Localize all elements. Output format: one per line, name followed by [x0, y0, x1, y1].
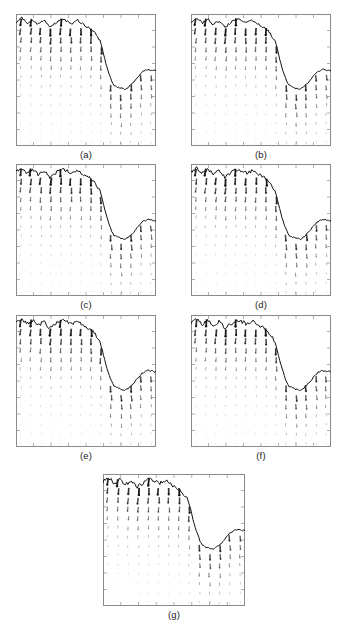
- figure-vector-field-array: (a)(b)(c)(d)(e)(f)(g): [0, 0, 348, 634]
- panel-d: (d): [191, 164, 331, 312]
- panel-plot-g: [103, 474, 245, 606]
- panel-frame: [17, 165, 156, 296]
- panel-b: (b): [191, 14, 331, 162]
- panel-g: (g): [103, 474, 245, 622]
- panel-plot-c: [16, 164, 156, 296]
- panel-frame: [192, 316, 331, 447]
- panel-frame: [17, 316, 156, 447]
- panel-f: (f): [191, 315, 331, 463]
- panel-plot-a: [16, 14, 156, 146]
- panel-plot-e: [16, 315, 156, 447]
- panel-label-g: (g): [103, 609, 245, 620]
- panel-label-b: (b): [191, 149, 331, 160]
- panel-plot-f: [191, 315, 331, 447]
- panel-plot-b: [191, 14, 331, 146]
- panel-label-e: (e): [16, 450, 156, 461]
- panel-label-a: (a): [16, 149, 156, 160]
- panel-e: (e): [16, 315, 156, 463]
- panel-label-c: (c): [16, 299, 156, 310]
- panel-c: (c): [16, 164, 156, 312]
- panel-label-f: (f): [191, 450, 331, 461]
- panel-a: (a): [16, 14, 156, 162]
- panel-frame: [192, 165, 331, 296]
- panel-frame: [104, 475, 245, 606]
- panel-plot-d: [191, 164, 331, 296]
- panel-label-d: (d): [191, 299, 331, 310]
